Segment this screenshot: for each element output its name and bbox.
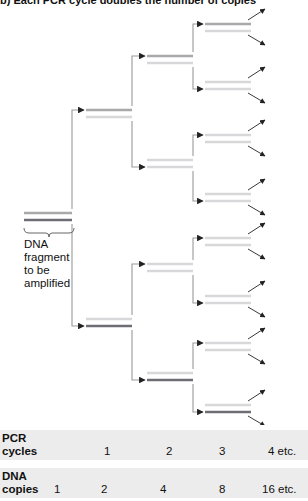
branch-arrow-up (193, 24, 203, 52)
table-cell: 16 etc. (262, 483, 297, 495)
branch-arrow-up (193, 343, 203, 369)
row-label-line: PCR (2, 432, 37, 445)
output-arrows (248, 9, 265, 425)
next-cycle-arrow-up (248, 390, 265, 401)
table-cell: 2 (166, 445, 172, 457)
next-cycle-arrow-down (248, 93, 265, 103)
next-cycle-arrow-up (248, 281, 265, 292)
branch-arrow-up (132, 56, 145, 106)
branch-arrow-up (193, 135, 203, 156)
branch-arrow-up (193, 238, 203, 260)
row-label-line: copies (2, 483, 38, 496)
dna-copies-label: DNA copies (2, 470, 38, 496)
branch-arrow-down (72, 224, 84, 326)
fragment-label-line: DNA (24, 238, 70, 251)
branch-arrow-down (193, 384, 203, 412)
branch-arrow-up (72, 110, 84, 209)
branch-arrow-down (132, 121, 145, 167)
branch-connectors (72, 24, 203, 412)
branch-arrow-down (132, 330, 145, 380)
dna-strands (24, 24, 251, 412)
table-cell: 3 (219, 445, 225, 457)
table-cell: 2 (101, 483, 107, 495)
next-cycle-arrow-down (248, 249, 265, 259)
next-cycle-arrow-up (248, 120, 265, 131)
branch-arrow-down (193, 67, 203, 89)
row-label-line: DNA (2, 470, 38, 483)
dna-copies-initial: 1 (54, 483, 60, 495)
next-cycle-arrow-up (248, 179, 265, 190)
branch-arrow-down (193, 275, 203, 303)
next-cycle-arrow-up (248, 67, 265, 78)
fragment-label-line: amplified (24, 277, 70, 290)
branch-arrow-up (132, 264, 145, 315)
next-cycle-arrow-up (248, 223, 265, 234)
next-cycle-arrow-down (248, 146, 265, 156)
pcr-cycles-label: PCR cycles (2, 432, 37, 458)
fragment-label: DNA fragment to be amplified (24, 238, 70, 290)
table-cell: 4 etc. (268, 445, 296, 457)
table-cell: 4 (160, 483, 166, 495)
next-cycle-arrow-down (248, 307, 265, 317)
next-cycle-arrow-down (248, 416, 265, 425)
branch-arrow-down (193, 171, 203, 201)
pcr-cycles-row: PCR cycles 1234 etc. (0, 430, 308, 460)
next-cycle-arrow-down (248, 205, 265, 215)
pcr-amplification-tree (0, 0, 308, 425)
fragment-label-line: to be (24, 264, 70, 277)
row-label-line: cycles (2, 445, 37, 458)
dna-copies-row: DNA copies 1 24816 etc. (0, 468, 308, 498)
next-cycle-arrow-down (248, 354, 265, 364)
fragment-label-line: fragment (24, 251, 70, 264)
table-cell: 1 (104, 445, 110, 457)
next-cycle-arrow-up (248, 328, 265, 339)
next-cycle-arrow-down (248, 35, 265, 45)
next-cycle-arrow-up (248, 9, 265, 20)
table-cell: 8 (219, 483, 225, 495)
fragment-bracket (24, 228, 74, 237)
